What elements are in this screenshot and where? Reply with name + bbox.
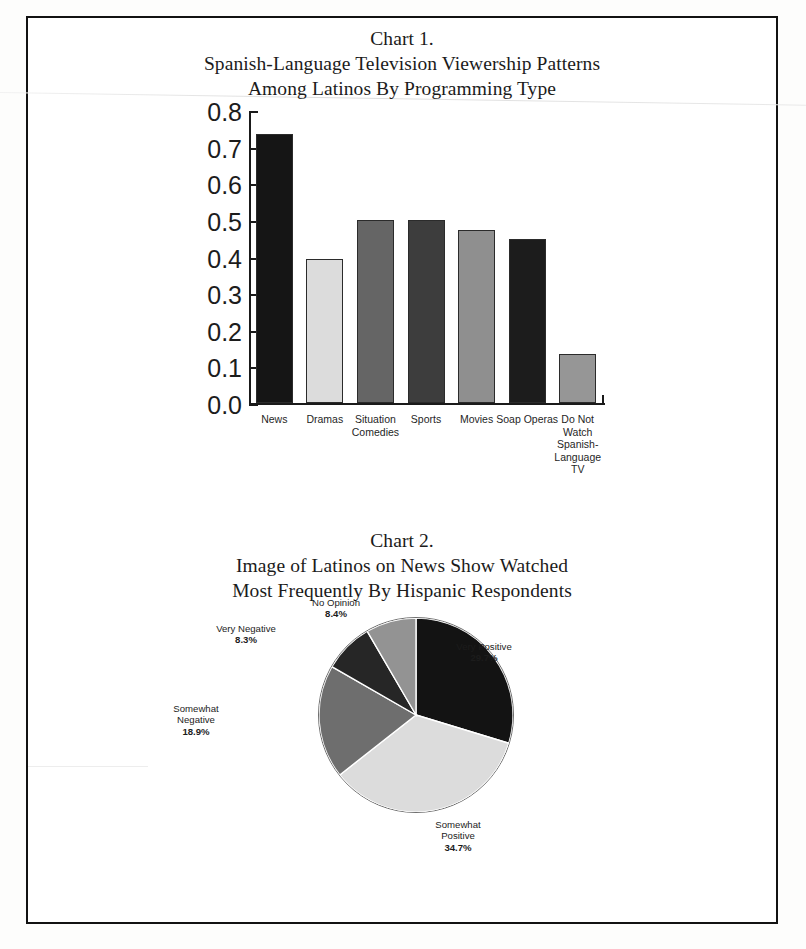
pie-slice-label-value: 8.4% <box>290 608 382 619</box>
chart-2-title-line-2: Image of Latinos on News Show Watched <box>28 553 776 578</box>
y-axis-tick-label: 0.1 <box>207 356 242 381</box>
y-axis-tick-label: 0.4 <box>207 246 242 271</box>
pie-slice-label-value: 8.3% <box>200 634 292 645</box>
pie-slice-label-name: Somewhat Negative <box>150 703 242 726</box>
chart-2-title: Chart 2. Image of Latinos on News Show W… <box>28 528 776 603</box>
x-axis-right-cap <box>602 395 604 405</box>
pie-slice-label-name: Very Positive <box>438 641 530 652</box>
chart-1-bar-block: Chart 1. Spanish-Language Television Vie… <box>28 26 776 501</box>
scanned-page: Chart 1. Spanish-Language Television Vie… <box>0 0 806 949</box>
pie-slice-label-value: 29.7% <box>438 652 530 663</box>
bar <box>408 220 445 403</box>
bar <box>256 134 293 403</box>
bar <box>306 259 343 403</box>
pie-chart-plot: Very Positive29.7%Somewhat Positive34.7%… <box>122 603 682 903</box>
pie-slice-label-name: No Opinion <box>290 597 382 608</box>
bar <box>509 239 546 403</box>
chart-2-title-line-3: Most Frequently By Hispanic Respondents <box>28 578 776 603</box>
pie-slice-label-name: Somewhat Positive <box>412 819 504 842</box>
y-axis-tick-label: 0.6 <box>207 173 242 198</box>
pie-slice-label: Somewhat Positive34.7% <box>412 819 504 853</box>
chart-2-title-line-1: Chart 2. <box>28 528 776 553</box>
chart-1-title-line-1: Chart 1. <box>28 26 776 51</box>
bar-chart-axes: 0.80.70.60.50.40.30.20.10.0 NewsDramasSi… <box>249 111 603 405</box>
y-axis-tick-label: 0.8 <box>207 100 242 125</box>
bar <box>458 230 495 403</box>
y-axis-tick-label: 0.5 <box>207 209 242 234</box>
pie-slice-label-value: 18.9% <box>150 726 242 737</box>
bar <box>357 220 394 403</box>
pie-slice-label: Somewhat Negative18.9% <box>150 703 242 737</box>
y-axis-tick: 0.8 <box>249 111 258 113</box>
x-axis-category-label: Do Not Watch Spanish- Language TV <box>547 413 609 476</box>
pie-slice-label: Very Negative8.3% <box>200 623 292 646</box>
pie-slice-label: Very Positive29.7% <box>438 641 530 664</box>
bar <box>559 354 596 403</box>
pie-slice-label: No Opinion8.4% <box>290 597 382 620</box>
chart-1-title: Chart 1. Spanish-Language Television Vie… <box>28 26 776 101</box>
pie-slice-label-name: Very Negative <box>200 623 292 634</box>
y-axis-tick-label: 0.0 <box>207 393 242 418</box>
chart-2-pie-block: Chart 2. Image of Latinos on News Show W… <box>28 528 776 903</box>
y-axis-tick-label: 0.7 <box>207 136 242 161</box>
chart-1-title-line-3: Among Latinos By Programming Type <box>28 76 776 101</box>
pie-slice-label-value: 34.7% <box>412 842 504 853</box>
y-axis-tick-label: 0.2 <box>207 319 242 344</box>
y-axis-tick: 0.0 <box>249 404 258 406</box>
chart-1-title-line-2: Spanish-Language Television Viewership P… <box>28 51 776 76</box>
bar-chart-plot: 0.80.70.60.50.40.30.20.10.0 NewsDramasSi… <box>187 101 617 501</box>
y-axis-tick-label: 0.3 <box>207 283 242 308</box>
x-axis-line <box>249 403 605 405</box>
